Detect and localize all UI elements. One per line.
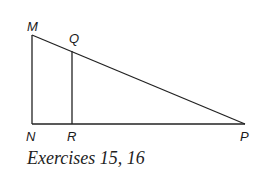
- segment-mp: [32, 35, 245, 124]
- label-n: N: [26, 129, 36, 144]
- figure-caption: Exercises 15, 16: [27, 148, 145, 169]
- label-r: R: [67, 129, 76, 144]
- label-p: P: [240, 129, 249, 144]
- label-q: Q: [69, 31, 79, 46]
- label-m: M: [27, 19, 38, 34]
